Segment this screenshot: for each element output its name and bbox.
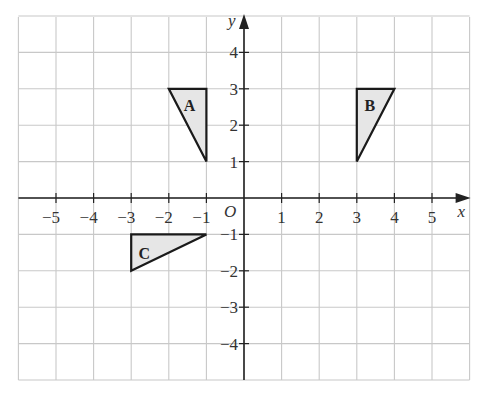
y-tick-label: −2 (220, 262, 238, 281)
triangles: ABC (131, 89, 394, 271)
x-tick-label: −4 (80, 208, 99, 227)
x-tick-label: −2 (155, 208, 173, 227)
x-tick-label: −1 (192, 208, 210, 227)
y-tick-label: 2 (230, 116, 239, 135)
triangle-label: C (139, 245, 151, 262)
triangle-label: B (365, 97, 376, 114)
y-axis-label: y (226, 11, 236, 30)
x-tick-label: −3 (117, 208, 135, 227)
tick-labels: xyO−5−4−3−2−1123454321−1−2−3−4 (42, 11, 466, 354)
triangle-label: A (184, 97, 196, 114)
x-tick-label: 4 (390, 208, 399, 227)
origin-label: O (224, 202, 236, 221)
y-tick-label: 3 (230, 80, 239, 99)
y-tick-label: 1 (230, 153, 239, 172)
x-tick-label: 1 (277, 208, 286, 227)
x-tick-label: 5 (428, 208, 437, 227)
coordinate-grid: xyO−5−4−3−2−1123454321−1−2−3−4 ABC (0, 0, 481, 394)
x-tick-label: 3 (353, 208, 362, 227)
x-tick-label: 2 (315, 208, 324, 227)
axes (18, 14, 470, 380)
y-tick-label: 4 (230, 43, 239, 62)
x-tick-label: −5 (42, 208, 60, 227)
y-tick-label: −3 (220, 298, 238, 317)
x-axis-label: x (457, 202, 466, 221)
y-tick-label: −1 (220, 225, 238, 244)
y-tick-label: −4 (220, 335, 239, 354)
